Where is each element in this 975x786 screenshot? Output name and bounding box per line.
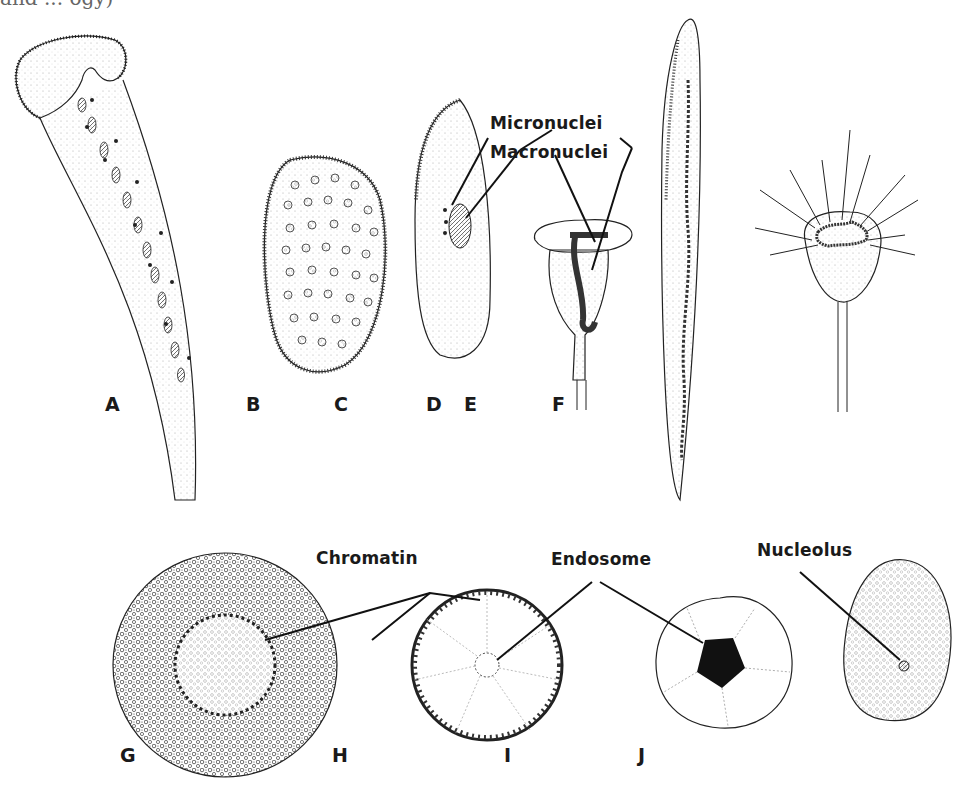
panel-label-e: E xyxy=(464,393,477,415)
callout-endosome: Endosome xyxy=(551,549,651,569)
panel-label-f: F xyxy=(552,393,565,415)
panel-label-c: C xyxy=(334,393,348,415)
callout-chromatin: Chromatin xyxy=(316,548,418,568)
nucleus-i xyxy=(656,597,792,728)
organism-b xyxy=(264,157,385,372)
callout-macronuclei: Macronuclei xyxy=(490,142,608,162)
nucleus-g xyxy=(113,553,337,777)
ciliate-nuclei-figure: and ... ogy) xyxy=(0,0,975,786)
panel-label-j: J xyxy=(638,744,645,766)
organism-d xyxy=(534,220,632,410)
panel-label-b: B xyxy=(246,393,260,415)
callout-micronuclei: Micronuclei xyxy=(490,113,603,133)
organism-e xyxy=(662,19,701,500)
nucleus-j xyxy=(844,560,951,721)
panel-label-d: D xyxy=(426,393,442,415)
callout-nucleolus: Nucleolus xyxy=(757,540,852,560)
panel-label-i: I xyxy=(504,744,511,766)
panel-label-g: G xyxy=(120,744,136,766)
figure-drawings xyxy=(0,0,975,786)
organism-a xyxy=(16,36,196,500)
organism-c xyxy=(415,100,490,358)
nucleus-h xyxy=(412,590,562,740)
organism-f xyxy=(755,130,918,412)
panel-label-h: H xyxy=(332,744,348,766)
panel-label-a: A xyxy=(105,393,120,415)
